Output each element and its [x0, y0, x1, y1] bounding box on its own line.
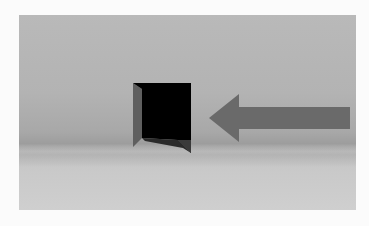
image-frame — [0, 0, 369, 226]
arrow-left-icon — [209, 94, 350, 142]
render-scene — [19, 15, 356, 210]
door-icon — [133, 83, 193, 153]
